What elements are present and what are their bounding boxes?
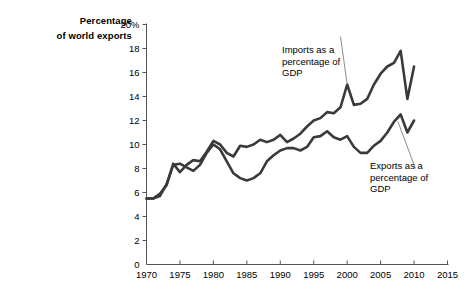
y-tick-label: 14 bbox=[129, 91, 140, 102]
x-tick-label: 2015 bbox=[437, 269, 458, 280]
x-axis-tick-group: 1970197519801985199019952000200520102015 bbox=[136, 261, 458, 280]
annotation-exports: Exports as a percentage of GDP bbox=[370, 160, 462, 195]
annotation-imports: Imports as a percentage of GDP bbox=[282, 44, 374, 79]
annotation-exports-line2: percentage of bbox=[370, 172, 428, 183]
x-tick-label: 1995 bbox=[303, 269, 324, 280]
annotation-exports-line3: GDP bbox=[370, 183, 391, 194]
x-tick-label: 1985 bbox=[236, 269, 257, 280]
x-tick-label: 2000 bbox=[337, 269, 358, 280]
chart-figure: Percentage of world exports 024681012141… bbox=[0, 0, 469, 290]
y-tick-label: 2 bbox=[134, 235, 139, 246]
y-tick-label: 4 bbox=[134, 211, 139, 222]
x-tick-label: 2005 bbox=[370, 269, 391, 280]
y-tick-label: 16 bbox=[129, 67, 140, 78]
y-tick-label: 8 bbox=[134, 163, 139, 174]
x-tick-label: 2010 bbox=[403, 269, 424, 280]
annotation-exports-line1: Exports as a bbox=[370, 160, 423, 171]
x-tick-label: 1980 bbox=[203, 269, 224, 280]
y-tick-label: 20% bbox=[120, 19, 140, 30]
y-tick-label: 10 bbox=[129, 139, 140, 150]
annotation-imports-line3: GDP bbox=[282, 67, 303, 78]
annotation-imports-line1: Imports as a bbox=[282, 44, 334, 55]
y-tick-label: 12 bbox=[129, 115, 140, 126]
annotation-imports-line2: percentage of bbox=[282, 56, 340, 67]
line-chart-plot: 02468101214161820% 197019751980198519901… bbox=[0, 0, 469, 290]
y-tick-label: 6 bbox=[134, 187, 139, 198]
x-tick-label: 1975 bbox=[169, 269, 190, 280]
x-tick-label: 1990 bbox=[270, 269, 291, 280]
y-tick-label: 18 bbox=[129, 43, 140, 54]
y-axis-tick-group: 02468101214161820% bbox=[120, 19, 146, 270]
x-tick-label: 1970 bbox=[136, 269, 157, 280]
